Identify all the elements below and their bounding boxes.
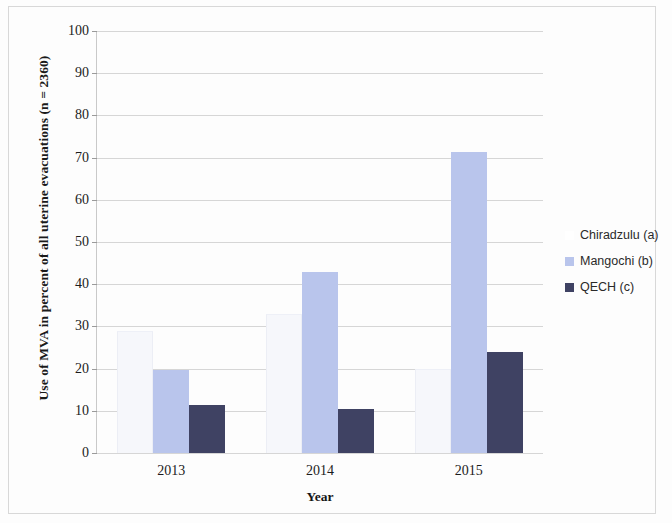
legend-label: QECH (c) [580,280,634,294]
bar-chiradzulu-2014 [266,314,302,453]
bar-chiradzulu-2015 [415,369,451,453]
y-tick-label: 100 [41,23,89,39]
y-tick-label: 0 [41,445,89,461]
y-tick-label: 90 [41,65,89,81]
x-tick-label: 2015 [455,463,483,479]
y-tick-label: 30 [41,318,89,334]
plot-area: 0102030405060708090100 201320142015 Year [96,31,543,454]
chart-figure: Use of MVA in percent of all uterine eva… [0,0,672,523]
legend-label: Chiradzulu (a) [580,228,659,242]
y-tick-label: 70 [41,150,89,166]
x-tick-label: 2013 [157,463,185,479]
bar-qech-2013 [189,405,225,453]
bar-mangochi-2015 [451,152,487,453]
x-axis-title: Year [97,489,543,505]
bar-chiradzulu-2013 [117,331,153,453]
legend-swatch-icon [565,257,574,266]
y-tick-label: 50 [41,234,89,250]
bar-group [246,31,395,453]
legend-swatch-icon [565,283,574,292]
bar-qech-2014 [338,409,374,453]
bar-group [97,31,246,453]
bar-qech-2015 [487,352,523,453]
legend-item[interactable]: QECH (c) [565,274,669,300]
y-tick-label: 20 [41,361,89,377]
legend-label: Mangochi (b) [580,254,653,268]
gridline [97,453,543,454]
y-tick-mark [92,453,97,454]
x-tick-label: 2014 [306,463,334,479]
legend-item[interactable]: Chiradzulu (a) [565,222,669,248]
legend-item[interactable]: Mangochi (b) [565,248,669,274]
y-tick-label: 80 [41,107,89,123]
bar-group [394,31,543,453]
y-tick-label: 60 [41,192,89,208]
y-tick-label: 10 [41,403,89,419]
y-tick-label: 40 [41,276,89,292]
bar-mangochi-2013 [153,370,189,453]
bar-mangochi-2014 [302,272,338,453]
legend-swatch-icon [565,231,574,240]
chart-legend: Chiradzulu (a)Mangochi (b)QECH (c) [565,222,669,300]
